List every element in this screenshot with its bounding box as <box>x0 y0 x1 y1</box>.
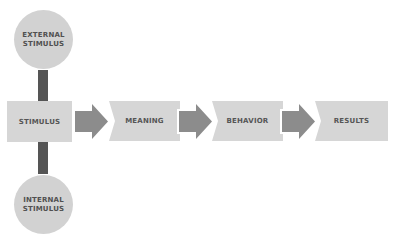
arrow-right-icon <box>280 101 318 142</box>
stimulus-box: STIMULUS <box>7 101 72 142</box>
meaning-label: MEANING <box>125 117 164 125</box>
stimulus-label: STIMULUS <box>19 118 61 126</box>
behavior-label: BEHAVIOR <box>227 117 269 125</box>
external-stimulus-label: EXTERNAL STIMULUS <box>22 31 66 49</box>
internal-stimulus-label: INTERNAL STIMULUS <box>22 196 66 214</box>
top-connector <box>38 70 48 101</box>
bottom-connector <box>38 142 48 174</box>
meaning-box: MEANING <box>109 101 180 141</box>
arrow-right-icon <box>73 101 111 142</box>
internal-stimulus-node: INTERNAL STIMULUS <box>14 175 73 234</box>
results-label: RESULTS <box>334 117 369 125</box>
results-box: RESULTS <box>315 101 388 141</box>
behavior-box: BEHAVIOR <box>212 101 283 141</box>
arrow-right-icon <box>177 101 215 142</box>
external-stimulus-node: EXTERNAL STIMULUS <box>14 10 73 69</box>
